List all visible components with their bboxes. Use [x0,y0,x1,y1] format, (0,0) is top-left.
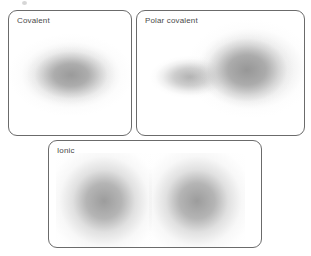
covalent-electron-cloud [8,19,132,131]
ionic-electron-cloud-left [56,153,152,248]
panel-ionic-label: Ionic [57,146,75,156]
polar-covalent-electron-cloud-tail [143,37,251,117]
panel-ionic: Ionic [48,140,262,248]
polar-covalent-electron-cloud-dense [136,13,305,136]
panel-covalent: Covalent [8,10,132,136]
panel-polar-covalent: Polar covalent [136,10,305,136]
ionic-electron-cloud-right [149,153,245,248]
stray-ink-mark [22,1,27,5]
panel-covalent-label: Covalent [17,16,50,26]
panel-polar-covalent-label: Polar covalent [145,16,198,26]
bond-type-figure: Covalent Polar covalent Ionic [0,0,311,256]
